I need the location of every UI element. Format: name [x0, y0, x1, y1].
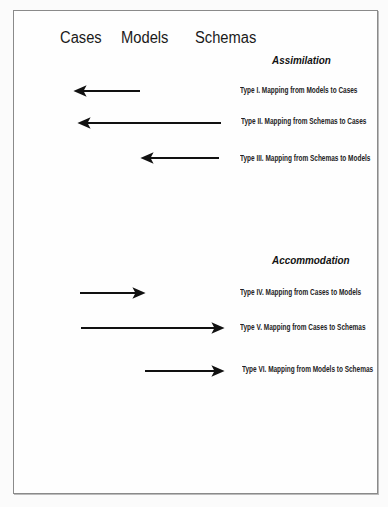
arrows-layer — [0, 0, 388, 507]
